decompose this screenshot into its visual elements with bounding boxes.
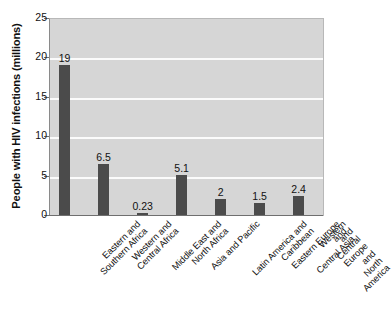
gridline	[50, 137, 323, 139]
gridline	[50, 98, 323, 100]
y-axis-title: People with HIV infections (millions)	[10, 16, 22, 216]
bar-value-label: 1.5	[252, 190, 267, 202]
bar	[215, 199, 226, 215]
y-tick-label: 25	[7, 11, 47, 23]
x-tick-label: Middle East and North Africa	[170, 219, 231, 280]
y-tick-label: 15	[7, 90, 47, 102]
bar-value-label: 5.1	[174, 162, 189, 174]
bar	[254, 203, 265, 215]
bar	[293, 196, 304, 215]
bar-value-label: 0.23	[132, 200, 152, 212]
bar	[176, 175, 187, 215]
x-axis-line	[44, 215, 323, 216]
y-tick-label: 0	[7, 208, 47, 220]
y-tick-label: 20	[7, 50, 47, 62]
bar-value-label: 2	[218, 186, 224, 198]
bar-value-label: 19	[59, 52, 71, 64]
bar-value-label: 6.5	[96, 151, 111, 163]
y-tick-label: 10	[7, 129, 47, 141]
bar	[98, 164, 109, 215]
y-tick-label: 5	[7, 169, 47, 181]
bar-value-label: 2.4	[291, 183, 306, 195]
bar	[59, 65, 70, 215]
gridline	[50, 58, 323, 60]
bar	[137, 213, 148, 215]
